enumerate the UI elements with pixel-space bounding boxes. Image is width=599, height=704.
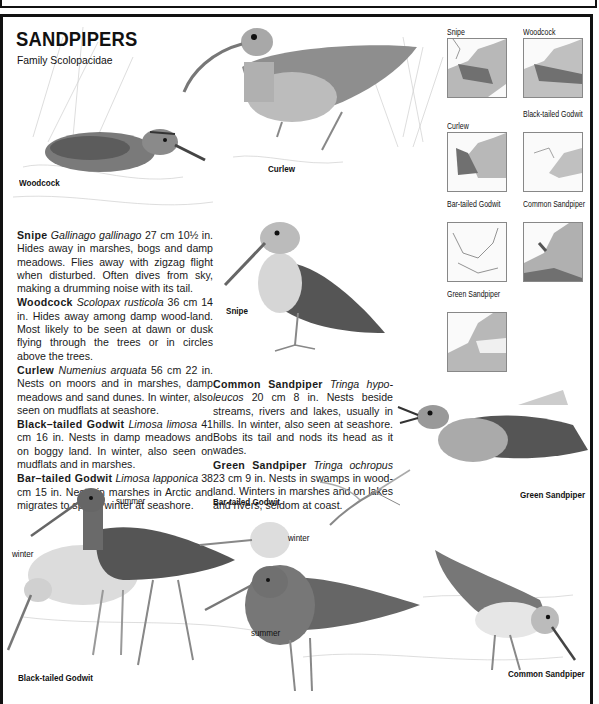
black-tailed-godwit-label: Black-tailed Godwit <box>18 672 93 683</box>
curlew-label: Curlew <box>268 163 295 174</box>
species-black-tailed-godwit: Black–tailed Godwit Limosa limosa 41 cm … <box>17 418 213 471</box>
bar-tailed-godwit-illustration <box>200 510 430 691</box>
common-sandpiper-label: Common Sandpiper <box>508 668 585 679</box>
species-snipe: Snipe Gallinago gallinago 27 cm 10½ in. … <box>17 229 213 295</box>
page-title: SANDPIPERS <box>16 28 137 51</box>
common-sandpiper-illustration <box>430 545 580 685</box>
summer-label-black-tailed: summer <box>116 495 145 506</box>
map-snipe <box>447 38 507 98</box>
summer-label-bar-tailed: summer <box>251 627 280 638</box>
map-title-black-tailed-godwit: Black-tailed Godwit <box>523 110 583 120</box>
curlew-illustration <box>182 22 422 152</box>
winter-label-bar-tailed: winter <box>288 532 310 543</box>
bar-tailed-godwit-label: Bar-tailed Godwit <box>213 496 280 507</box>
green-sandpiper-label: Green Sandpiper <box>520 489 585 500</box>
snipe-illustration <box>220 213 390 353</box>
map-title-bar-tailed-godwit: Bar-tailed Godwit <box>447 200 500 210</box>
map-title-curlew: Curlew <box>447 122 469 132</box>
map-title-common-sandpiper: Common Sandpiper <box>523 200 585 210</box>
map-green-sandpiper <box>447 312 507 372</box>
map-title-green-sandpiper: Green Sandpiper <box>447 290 500 300</box>
map-title-woodcock: Woodcock <box>523 28 555 38</box>
map-curlew <box>447 132 507 192</box>
species-descriptions-left: Snipe Gallinago gallinago 27 cm 10½ in. … <box>17 229 213 513</box>
previous-page-strip <box>0 0 597 8</box>
map-woodcock <box>523 38 583 98</box>
species-common-sandpiper: Common Sandpiper Tringa hypo-leucos 20 c… <box>213 378 393 458</box>
page-subtitle: Family Scolopacidae <box>17 54 112 66</box>
map-common-sandpiper <box>523 222 583 282</box>
species-woodcock: Woodcock Scolopax rusticola 36 cm 14 in.… <box>17 296 213 362</box>
snipe-label: Snipe <box>226 305 248 316</box>
woodcock-label: Woodcock <box>19 177 60 188</box>
map-title-snipe: Snipe <box>447 28 465 38</box>
species-curlew: Curlew Numenius arquata 56 cm 22 in. Nes… <box>17 364 213 417</box>
winter-label-black-tailed: winter <box>12 548 34 559</box>
green-sandpiper-illustration <box>398 385 598 485</box>
map-black-tailed-godwit <box>523 132 583 192</box>
map-bar-tailed-godwit <box>447 222 507 282</box>
